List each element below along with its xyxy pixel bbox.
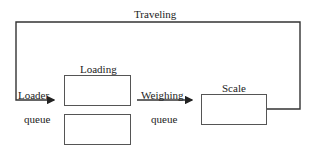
weighing-queue-label-2: queue — [151, 113, 177, 125]
loading-slot-1 — [64, 75, 131, 106]
loader-queue-label-2: queue — [24, 113, 50, 125]
traveling-label: Traveling — [134, 8, 176, 20]
scale-title: Scale — [222, 82, 246, 94]
flow-lines — [0, 0, 313, 154]
weighing-queue-label-1: Weighing — [141, 89, 184, 101]
loading-title: Loading — [80, 63, 117, 75]
loader-queue-label-1: Loader — [18, 89, 49, 101]
loading-slot-2 — [64, 114, 131, 145]
scale-box — [201, 94, 267, 125]
